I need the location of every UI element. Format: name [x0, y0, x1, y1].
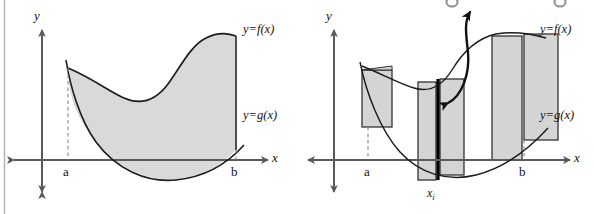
left-x-axis-label: x: [272, 150, 278, 166]
shaded-region-left: [68, 34, 236, 180]
left-curve-f-label: y=f(x): [243, 22, 274, 37]
sample-point-index: i: [432, 192, 434, 202]
left-curve-g-label: y=g(x): [243, 108, 277, 123]
sample-point-label: xi: [427, 186, 435, 202]
riemann-rect-1: [362, 70, 392, 127]
right-x-axis-label: x: [574, 150, 580, 166]
right-limit-b-label: b: [519, 164, 526, 180]
riemann-rect-5: [524, 34, 558, 140]
left-panel: [14, 30, 268, 192]
figure-svg: [0, 0, 594, 214]
right-curve-g-label: y=g(x): [540, 108, 574, 123]
right-panel: [308, 12, 570, 192]
left-y-axis-label: y: [34, 8, 40, 24]
right-curve-f-label: y=f(x): [540, 22, 571, 37]
left-limit-b-label: b: [231, 164, 238, 180]
right-limit-a-label: a: [364, 164, 370, 180]
clipped-heading-fragment: [447, 0, 566, 7]
riemann-rect-4: [492, 36, 522, 160]
left-limit-a-label: a: [63, 164, 69, 180]
figure-area-between-curves: y x a b y=f(x) y=g(x) y x a b y=f(x) y=g…: [0, 0, 594, 214]
riemann-rect-2-left: [418, 82, 436, 180]
right-y-axis-label: y: [326, 8, 332, 24]
